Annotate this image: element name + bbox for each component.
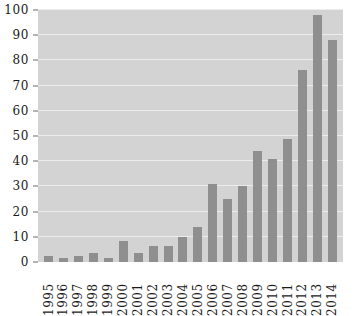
- x-tick-label: 2002: [149, 264, 158, 316]
- x-tick-label: 2013: [313, 264, 322, 316]
- bar: [298, 70, 307, 262]
- bar: [193, 227, 202, 262]
- y-tick-label: 10: [13, 230, 29, 244]
- bar: [44, 256, 53, 262]
- bar: [119, 241, 128, 262]
- bar: [59, 258, 68, 262]
- x-tick-label: 1995: [44, 264, 53, 316]
- bar: [74, 256, 83, 262]
- y-tick-label: 0: [21, 255, 29, 269]
- x-tick-label: 2008: [238, 264, 247, 316]
- x-tick-label: 2006: [208, 264, 217, 316]
- bar: [253, 151, 262, 262]
- bar: [149, 246, 158, 262]
- bar: [208, 184, 217, 262]
- y-tick-label: 20: [13, 205, 29, 219]
- y-tick-label: 50: [13, 129, 29, 143]
- x-tick-label: 2012: [298, 264, 307, 316]
- y-tick-label: 60: [13, 104, 29, 118]
- x-tick-labels: 1995199619971998199920002001200220032004…: [38, 264, 343, 316]
- bar: [328, 40, 337, 262]
- y-tick-label: 80: [13, 53, 29, 67]
- y-tick-label: 30: [13, 179, 29, 193]
- bar: [238, 186, 247, 262]
- x-tick-label: 1999: [104, 264, 113, 316]
- bar: [104, 258, 113, 262]
- x-tick-label: 1998: [89, 264, 98, 316]
- x-tick-label: 2003: [164, 264, 173, 316]
- x-tick-label: 2011: [283, 264, 292, 316]
- y-tick-label: 40: [13, 154, 29, 168]
- x-tick-label: 2005: [193, 264, 202, 316]
- bar-chart: 0102030405060708090100 19951996199719981…: [0, 0, 359, 316]
- y-tick-label: 100: [4, 3, 29, 17]
- x-tick-label: 2000: [119, 264, 128, 316]
- bar: [313, 15, 322, 262]
- bar: [178, 237, 187, 262]
- y-axis: 0102030405060708090100: [0, 10, 38, 262]
- bar: [268, 159, 277, 262]
- x-tick-label: 1997: [74, 264, 83, 316]
- y-tick-label: 90: [13, 28, 29, 42]
- bar: [164, 246, 173, 262]
- x-tick-label: 2010: [268, 264, 277, 316]
- x-tick-label: 1996: [59, 264, 68, 316]
- y-tick-label: 70: [13, 79, 29, 93]
- x-tick-label: 2007: [223, 264, 232, 316]
- x-tick-label: 2009: [253, 264, 262, 316]
- bar: [134, 253, 143, 262]
- x-tick-label: 2001: [134, 264, 143, 316]
- x-tick-label: 2014: [328, 264, 337, 316]
- bars-container: [38, 10, 343, 262]
- x-tick-label: 2004: [178, 264, 187, 316]
- bar: [283, 139, 292, 262]
- plot-area: [38, 10, 343, 262]
- bar: [89, 253, 98, 262]
- x-axis: 1995199619971998199920002001200220032004…: [38, 264, 343, 316]
- bar: [223, 199, 232, 262]
